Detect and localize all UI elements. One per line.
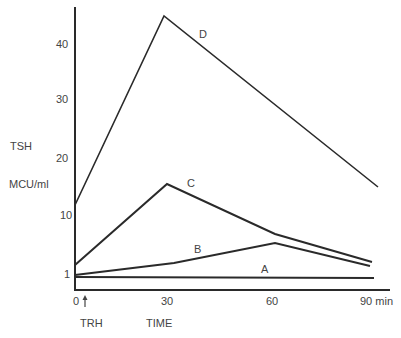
y-tick-10: 10 [60,209,72,221]
x-axis-title: TIME [146,317,172,329]
series-d-line [75,16,378,205]
series-d-label: D [199,28,207,40]
x-tick-90: 90 min [360,295,393,307]
y-tick-40: 40 [56,38,68,50]
series-c-label: C [187,177,195,189]
x-tick-30: 30 [161,295,173,307]
trh-label: TRH [80,317,103,329]
tsh-response-chart: 40 30 20 10 1 TSH MCU/ml 0 30 60 90 min … [0,0,401,338]
series-a-label: A [261,263,269,275]
y-axis-title-tsh: TSH [10,140,32,152]
series-a-line [75,277,374,278]
series-b-label: B [194,243,201,255]
x-tick-60: 60 [266,295,278,307]
y-tick-30: 30 [56,93,68,105]
x-tick-0: 0 [73,295,79,307]
y-tick-20: 20 [56,152,68,164]
y-axis-title-unit: MCU/ml [9,178,49,190]
trh-arrow-icon [83,295,88,307]
y-tick-1: 1 [64,268,70,280]
